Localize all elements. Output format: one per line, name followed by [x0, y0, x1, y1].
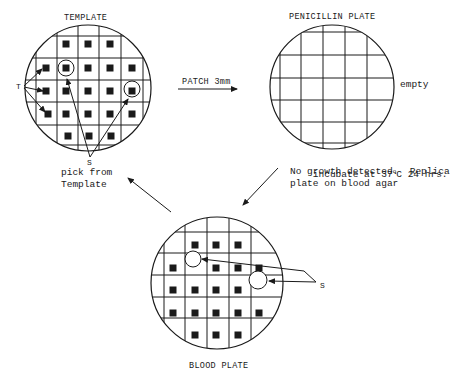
colony [85, 65, 92, 72]
colony [213, 265, 220, 272]
replica-plating-diagram: TEMPLATE PENICILLIN PLATE BLOOD PLATE PA… [0, 0, 459, 373]
colony [63, 111, 70, 118]
colony [63, 88, 70, 95]
colony [63, 41, 70, 48]
colony [235, 242, 242, 249]
colony [107, 41, 114, 48]
colony [107, 111, 114, 118]
penicillin-title: PENICILLIN PLATE [289, 13, 375, 22]
colony [192, 287, 199, 294]
incubate-line2: No growth detected. Replica [290, 166, 450, 178]
to-blood-arrow [243, 168, 278, 205]
patch-label: PATCH 3mm [182, 78, 231, 87]
colony [192, 310, 199, 317]
to-template-arrow [128, 178, 171, 212]
pick-from-line1: pick from [61, 167, 112, 179]
empty-label: empty [400, 79, 429, 91]
pick-from-line2: Template [61, 179, 107, 191]
colony [43, 65, 50, 72]
colony [213, 287, 220, 294]
blood-plate [151, 217, 283, 349]
penicillin-plate-rim [270, 25, 394, 149]
colony [192, 242, 199, 249]
colony [65, 133, 72, 140]
s-label-blood: S [320, 280, 325, 292]
colony [170, 310, 177, 317]
penicillin-plate [270, 25, 394, 149]
colony [85, 88, 92, 95]
colony [213, 310, 220, 317]
colony [108, 133, 115, 140]
colony [129, 88, 136, 95]
colony [63, 65, 70, 72]
colony [85, 41, 92, 48]
missing-colony-ring [249, 271, 267, 289]
colony [213, 242, 220, 249]
incubate-line3: plate on blood agar [290, 178, 398, 190]
colony [107, 65, 114, 72]
colony [85, 111, 92, 118]
colony [170, 265, 177, 272]
colony [129, 111, 136, 118]
colony [170, 287, 177, 294]
colony [235, 310, 242, 317]
colony [129, 65, 136, 72]
t-label: T [16, 81, 21, 93]
penicillin-plate-grid [270, 25, 394, 149]
colony [235, 332, 242, 339]
missing-colony-ring [185, 251, 201, 267]
colony [235, 265, 242, 272]
colony [86, 133, 93, 140]
colony [43, 88, 50, 95]
colony [192, 332, 199, 339]
colony [45, 111, 52, 118]
colony [107, 88, 114, 95]
template-title: TEMPLATE [64, 14, 107, 23]
colony [213, 332, 220, 339]
colony [256, 310, 263, 317]
blood-title: BLOOD PLATE [189, 362, 248, 371]
colony [235, 287, 242, 294]
template-plate [25, 25, 151, 151]
